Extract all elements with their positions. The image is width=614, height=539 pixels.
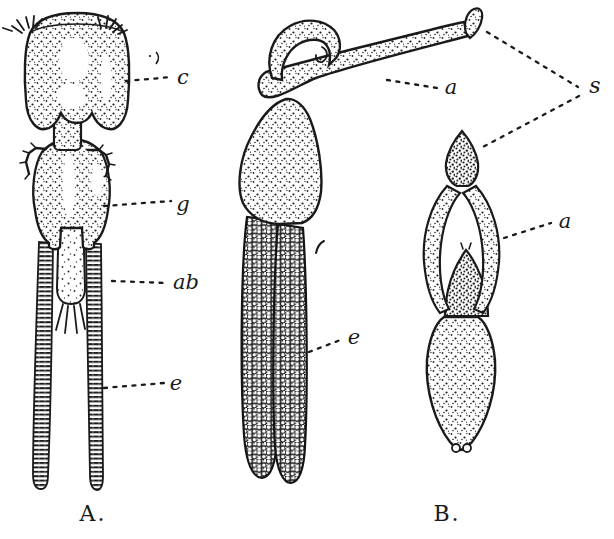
figure-a: c g ab e A. bbox=[3, 13, 199, 526]
figure-b-right: s a B. bbox=[424, 32, 601, 526]
label-ab: ab bbox=[173, 270, 199, 294]
figure-b-arm-tip bbox=[465, 8, 482, 38]
figure-b2-foot-left bbox=[452, 444, 460, 452]
figure-a-head-window-lower bbox=[57, 84, 85, 108]
leader-e-a bbox=[104, 383, 164, 388]
stray-dot bbox=[149, 55, 151, 57]
leader-s-to-arm-tip bbox=[487, 32, 578, 87]
figure-b2-rostrum-ticks bbox=[461, 243, 471, 249]
figure-a-egg-string-right bbox=[86, 243, 103, 490]
leader-e-b bbox=[309, 339, 343, 352]
figure-b2-body bbox=[427, 317, 495, 450]
engraving-canvas: c g ab e A. a e bbox=[0, 0, 614, 539]
leader-s-to-bud bbox=[479, 96, 579, 149]
figure-b2-sucker-bud bbox=[446, 131, 478, 186]
label-s: s bbox=[589, 73, 600, 98]
figure-a-tail-filaments bbox=[56, 304, 85, 333]
label-e-a: e bbox=[170, 371, 182, 395]
figure-b2-foot-right bbox=[463, 444, 471, 452]
leader-a-upper bbox=[387, 80, 437, 88]
label-a-lower: a bbox=[559, 209, 572, 233]
caption-b: B. bbox=[433, 501, 460, 526]
label-g: g bbox=[176, 192, 189, 216]
leader-c bbox=[126, 77, 172, 81]
caption-a: A. bbox=[79, 501, 107, 526]
label-e-b: e bbox=[348, 325, 360, 349]
label-a-upper: a bbox=[445, 75, 458, 99]
leader-a-lower bbox=[504, 223, 551, 238]
figure-a-head-window-upper bbox=[59, 38, 89, 82]
zoological-plate: c g ab e A. a e bbox=[0, 0, 614, 539]
leader-g bbox=[104, 201, 171, 206]
figure-a-head-window-side bbox=[101, 54, 112, 102]
figure-b-body bbox=[240, 99, 322, 224]
comma-mark bbox=[316, 241, 324, 253]
figure-a-trunk-highlight bbox=[91, 164, 103, 196]
leader-ab bbox=[112, 281, 166, 283]
figure-a-egg-string-left bbox=[33, 242, 53, 489]
figure-b-egg-sac-right bbox=[273, 224, 306, 483]
stray-bracket-mark bbox=[156, 52, 159, 64]
label-c: c bbox=[177, 65, 189, 89]
figure-a-trunk-midline bbox=[63, 152, 75, 218]
